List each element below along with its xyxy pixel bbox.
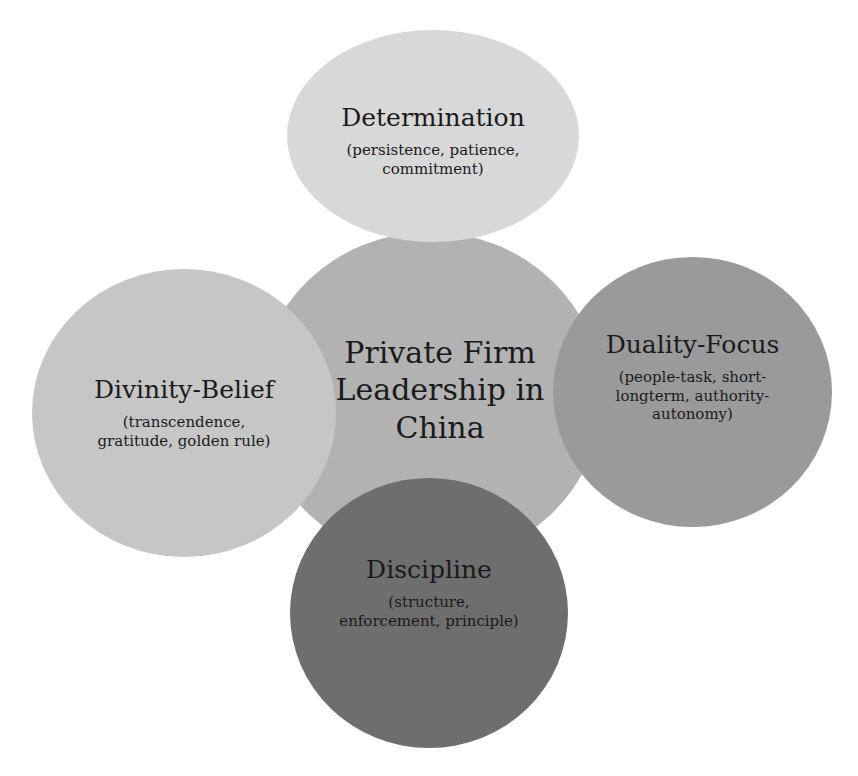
node-subtitle: (structure, enforcement, principle) (339, 593, 518, 631)
node-title: Determination (341, 103, 525, 133)
node-title: Divinity-Belief (94, 375, 274, 405)
node-title: Duality-Focus (606, 330, 780, 360)
node-subtitle: (people-task, short- longterm, authority… (616, 368, 770, 424)
node-discipline: Discipline (structure, enforcement, prin… (290, 478, 568, 748)
node-divinity-belief: Divinity-Belief (transcendence, gratitud… (32, 269, 336, 557)
node-subtitle: (persistence, patience, commitment) (346, 141, 519, 179)
node-determination: Determination (persistence, patience, co… (287, 30, 579, 242)
node-duality-focus: Duality-Focus (people-task, short- longt… (553, 257, 832, 527)
center-label: Private Firm Leadership in China (300, 300, 580, 480)
center-title: Private Firm Leadership in China (336, 334, 545, 447)
node-subtitle: (transcendence, gratitude, golden rule) (98, 413, 271, 451)
node-title: Discipline (366, 555, 492, 585)
